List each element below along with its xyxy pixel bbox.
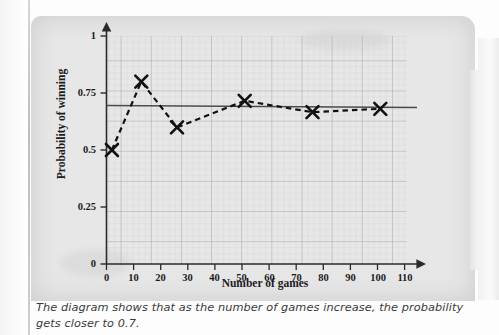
screenshot-root: 0 0.25 0.5 0.75 1 0 10 20 30 40 50 60 70… [0, 0, 499, 335]
x-tick-label: 20 [148, 272, 173, 283]
y-tick-label: 0 [60, 258, 96, 269]
y-axis-ticks [101, 36, 107, 264]
y-tick-label: 0.25 [54, 201, 96, 212]
y-axis-title: Probability of winning [55, 49, 67, 199]
x-axis-title: Number of games [180, 277, 350, 289]
x-tick-label: 110 [390, 272, 420, 283]
probability-chart: 0 0.25 0.5 0.75 1 0 10 20 30 40 50 60 70… [0, 0, 499, 335]
x-tick-label: 0 [94, 272, 119, 283]
chart-gridlines [107, 36, 407, 264]
x-tick-label: 10 [121, 272, 146, 283]
diagram-caption: The diagram shows that as the number of … [36, 300, 476, 331]
x-tick-label: 100 [363, 272, 393, 283]
caption-line-2: gets closer to 0.7. [36, 316, 476, 332]
y-tick-label: 1 [60, 30, 96, 41]
caption-line-1: The diagram shows that as the number of … [36, 300, 476, 316]
x-axis-ticks [107, 264, 405, 270]
